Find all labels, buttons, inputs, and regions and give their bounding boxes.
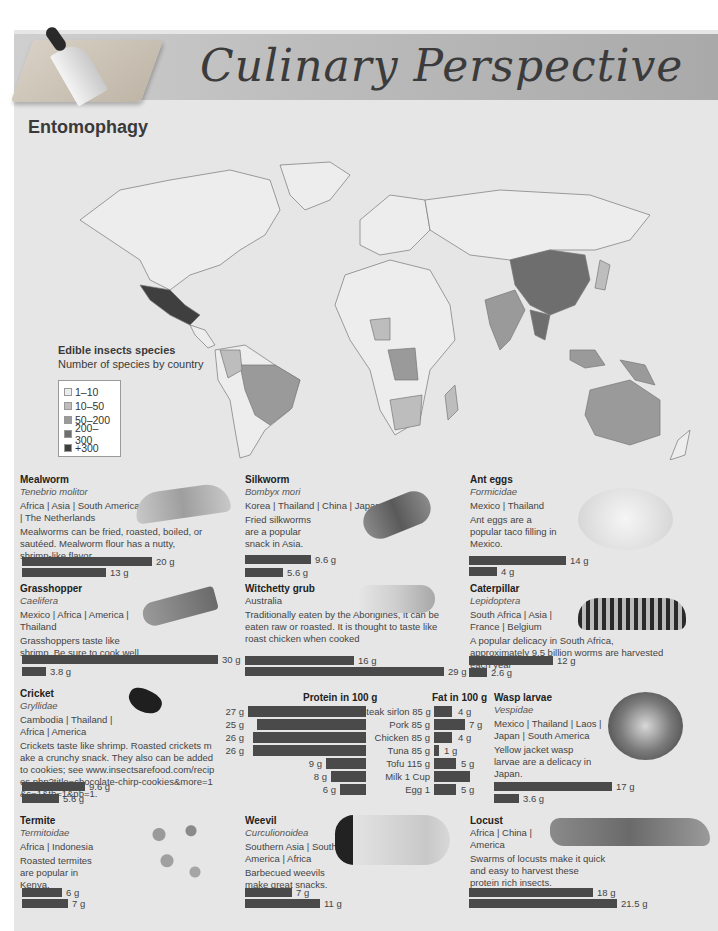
protein-bar: 17 g (494, 782, 635, 791)
fat-bar: 11 g (245, 899, 342, 908)
map-india (485, 290, 525, 350)
map-madagascar (445, 385, 458, 420)
fat-bar: 7 g (22, 899, 85, 908)
world-map (30, 140, 710, 460)
map-europe (360, 195, 430, 255)
map-legend: 1–10 10–50 50–200 200–300 +300 (58, 380, 121, 457)
protein-bar: 30 g (22, 655, 241, 664)
protein-bar: 9.6 g (245, 555, 336, 564)
legend-swatch (64, 402, 72, 410)
protein-bar: 9.6 g (22, 782, 110, 791)
weevil-image (335, 815, 450, 865)
fat-bar: 29 g (245, 667, 467, 676)
section-title: Entomophagy (28, 117, 148, 138)
termite-image (135, 812, 215, 887)
map-new-zealand (670, 430, 690, 460)
legend-subtitle: Number of species by country (58, 358, 204, 370)
protein-bar: 12 g (469, 656, 576, 665)
legend-swatch (64, 444, 72, 452)
insect-card-termite: Termite Termitoidae Africa | Indonesia R… (20, 815, 130, 891)
protein-header: Protein in 100 g (303, 692, 377, 703)
legend-swatch (64, 388, 72, 396)
protein-bar: 18 g (469, 888, 616, 897)
protein-bar: 14 g (469, 556, 589, 565)
map-southern-africa (390, 395, 422, 430)
legend-item: 200–300 (64, 427, 115, 441)
map-asia (425, 190, 650, 260)
locust-image (550, 818, 710, 846)
fat-bar: 2.6 g (469, 668, 512, 677)
ant-eggs-image (578, 488, 673, 550)
fat-bar: 3.6 g (494, 794, 544, 803)
fat-bar: 13 g (22, 568, 129, 577)
legend-swatch (64, 430, 72, 438)
fat-bar: 21.5 g (469, 899, 647, 908)
legend-title: Edible insects species (58, 344, 175, 356)
map-north-america (80, 170, 280, 290)
insect-card-wasp-larvae: Wasp larvae Vespidae Mexico | Thailand |… (494, 692, 604, 780)
protein-bar: 6 g (22, 888, 79, 897)
fat-bar: 5.6 g (22, 794, 84, 803)
legend-swatch (64, 416, 72, 424)
insect-card-weevil: Weevil Curculionoidea Southern Asia | So… (245, 815, 345, 891)
protein-bar: 20 g (22, 557, 175, 566)
witchetty-grub-image (355, 585, 435, 613)
banner-title: Culinary Perspective (200, 40, 683, 91)
map-southeast-asia (530, 310, 550, 340)
map-mexico (140, 285, 200, 325)
map-japan (595, 260, 610, 290)
map-australia (585, 380, 660, 445)
map-greenland (280, 162, 350, 210)
legend-item: 1–10 (64, 385, 115, 399)
fat-bar: 4 g (469, 567, 514, 576)
fat-bar: 3.8 g (22, 667, 71, 676)
fat-header: Fat in 100 g (432, 692, 487, 703)
caterpillar-image (578, 598, 686, 630)
legend-item: 10–50 (64, 399, 115, 413)
fat-bar: 5.6 g (245, 568, 308, 577)
wasp-larvae-image (608, 692, 683, 760)
protein-bar: 7 g (245, 888, 309, 897)
map-indonesia (570, 350, 605, 368)
protein-bar: 16 g (245, 656, 377, 665)
